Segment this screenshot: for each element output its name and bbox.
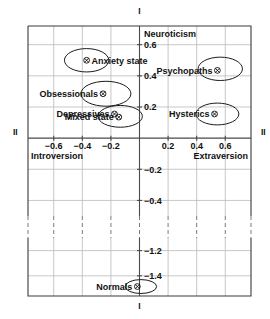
chart-canvas: −0.6−0.4−0.20.20.40.60.60.40.2−0.2−0.4−1…: [0, 0, 270, 319]
data-point-obsessionals: [100, 91, 106, 97]
axis-title-neuroticism: Neuroticism: [144, 29, 196, 39]
data-point-hysterics: [212, 111, 218, 117]
ytick-label-3: −0.2: [144, 165, 162, 175]
axis-label-roman-i-bottom: I: [138, 301, 140, 311]
xtick-label-0: −0.6: [45, 141, 63, 151]
ytick-label-5: −1.2: [144, 246, 162, 256]
ytick-label-4: −0.4: [144, 196, 162, 206]
xtick-label-2: −0.2: [102, 141, 120, 151]
data-point-mixed-state: [116, 114, 122, 120]
axis-label-roman-ii-right: II: [261, 127, 266, 137]
data-label-obsessionals: Obsessionals: [40, 89, 99, 99]
data-label-mixed-state: Mixed state: [65, 112, 114, 122]
xtick-label-3: 0.2: [162, 141, 175, 151]
data-point-psychopaths: [215, 67, 221, 73]
xtick-label-1: −0.4: [73, 141, 91, 151]
xtick-label-5: 0.6: [219, 141, 232, 151]
data-point-anxiety-state: [84, 57, 90, 63]
axis-title-introversion: Introversion: [31, 151, 83, 161]
ytick-label-2: 0.2: [144, 102, 157, 112]
data-label-normals: Normals: [96, 282, 132, 292]
data-label-hysterics: Hysterics: [169, 109, 210, 119]
data-label-anxiety-state: Anxiety state: [92, 56, 148, 66]
xtick-label-4: 0.4: [190, 141, 203, 151]
axis-label-roman-i-top: I: [138, 6, 140, 16]
axis-label-roman-ii-left: II: [13, 127, 18, 137]
ytick-label-0: 0.6: [144, 40, 157, 50]
data-label-psychopaths: Psychopaths: [156, 66, 212, 76]
axis-title-extraversion: Extraversion: [193, 151, 248, 161]
ytick-label-1: 0.4: [144, 71, 157, 81]
scatter-chart: −0.6−0.4−0.20.20.40.60.60.40.2−0.2−0.4−1…: [0, 0, 270, 319]
